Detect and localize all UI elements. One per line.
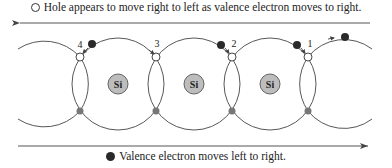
electron-near-1	[293, 41, 301, 49]
bond-label-3: 3	[155, 38, 160, 49]
si-atom-2: Si	[184, 74, 204, 94]
hole-3	[152, 53, 160, 61]
bond-label-2: 2	[232, 38, 237, 49]
si-atom-label: Si	[190, 79, 199, 90]
orbital-right-bottom	[308, 111, 372, 128]
si-atom-label: Si	[266, 79, 275, 90]
electron-caption-text: Valence electron moves left to right.	[119, 150, 286, 162]
hole-1	[304, 53, 312, 61]
si-atom-label: Si	[114, 79, 123, 90]
electron-right	[341, 33, 349, 41]
electron-near-2	[217, 41, 225, 49]
holes	[76, 53, 312, 61]
silicon-lattice-diagram: Si Si Si 4 3 2 1	[0, 0, 392, 168]
electron-near-4	[88, 40, 96, 48]
hole-4	[76, 53, 84, 61]
si-atom-3: Si	[260, 74, 280, 94]
bond-label-1: 1	[308, 38, 313, 49]
orbital-left-bottom	[18, 111, 80, 127]
bonded-electrons	[77, 108, 312, 115]
electron-caption: Valence electron moves left to right.	[0, 150, 392, 162]
orbital-right-top	[308, 40, 372, 57]
si-atom-1: Si	[108, 74, 128, 94]
electron-legend-icon	[106, 152, 115, 161]
orbital-left-top	[18, 41, 80, 57]
hole-2	[228, 53, 236, 61]
bond-label-4: 4	[78, 39, 83, 50]
